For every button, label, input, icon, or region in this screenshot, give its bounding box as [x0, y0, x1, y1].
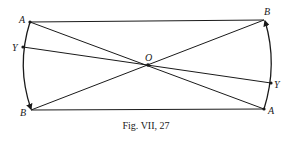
label-Y-left: Y	[12, 42, 19, 53]
point-O	[146, 63, 150, 67]
left-arc-arrow	[23, 22, 31, 109]
point-Y-right	[269, 81, 272, 84]
figure-caption: Fig. VII, 27	[0, 120, 292, 131]
point-A-left	[28, 20, 31, 23]
top-edge	[30, 20, 264, 22]
label-A-left: A	[18, 14, 26, 25]
point-Y-left	[21, 45, 24, 48]
right-arc-arrow	[264, 21, 271, 109]
label-Y-right: Y	[274, 79, 281, 90]
label-O: O	[145, 52, 152, 63]
label-A-right: A	[267, 105, 275, 116]
point-A-right	[262, 107, 265, 110]
label-B-left: B	[20, 107, 26, 118]
label-B-right: B	[264, 6, 270, 17]
bottom-edge	[31, 109, 264, 110]
